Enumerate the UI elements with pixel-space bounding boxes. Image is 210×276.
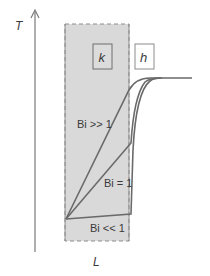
label-bi-much-less: Bi << 1	[90, 222, 125, 234]
temperature-axis-label: T	[15, 19, 24, 33]
label-bi-equal: Bi = 1	[104, 177, 132, 189]
convection-label: h	[140, 50, 147, 65]
biot-number-diagram: T k h Bi >> 1 Bi = 1 Bi << 1 L	[0, 0, 210, 276]
label-bi-much-greater: Bi >> 1	[77, 118, 112, 130]
length-axis-label: L	[93, 255, 100, 269]
